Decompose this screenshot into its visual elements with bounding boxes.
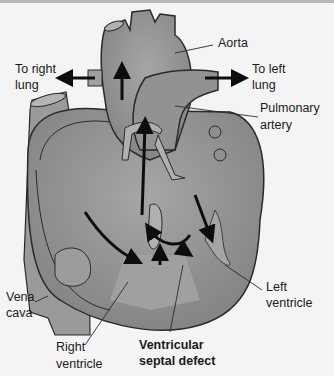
label-to-left-lung-line1: To left: [252, 62, 285, 77]
label-right-ventricle-line2: ventricle: [56, 357, 103, 372]
label-to-right-lung-line1: To right: [15, 62, 56, 77]
label-left-ventricle-line1: Left: [266, 280, 287, 295]
heart-diagram: [0, 0, 334, 376]
label-pulmonary-artery-line2: artery: [260, 118, 292, 133]
label-left-ventricle-line2: ventricle: [266, 296, 313, 311]
label-vena-cava-line2: cava: [6, 306, 32, 321]
label-pulmonary-artery-line1: Pulmonary: [260, 101, 320, 116]
label-aorta: Aorta: [218, 36, 248, 51]
label-vena-cava-line1: Vena: [6, 290, 35, 305]
label-vsd-line2: septal defect: [139, 354, 215, 369]
label-vsd-line1: Ventricular: [139, 338, 204, 353]
label-to-left-lung-line2: lung: [252, 78, 276, 93]
label-to-right-lung-line2: lung: [15, 78, 39, 93]
label-right-ventricle-line1: Right: [56, 340, 85, 355]
